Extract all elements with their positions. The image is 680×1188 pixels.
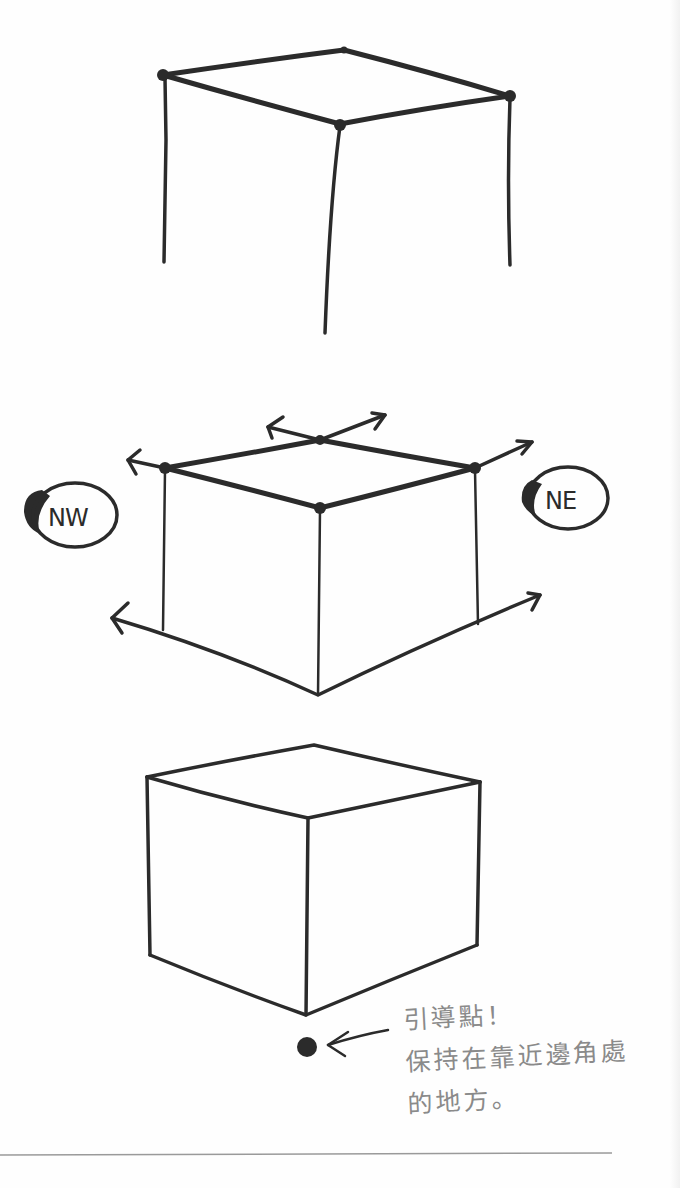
page-edge-shadow — [670, 0, 680, 1188]
corner-dot-back — [341, 47, 348, 54]
ne-label: NE — [545, 487, 576, 515]
step-1-open-cube — [157, 47, 516, 334]
corner-dot-left — [157, 69, 169, 81]
guide-point — [297, 1037, 317, 1057]
bottom-divider — [0, 1153, 612, 1155]
corner-dot-right — [504, 90, 516, 102]
nw-direction-badge: NW — [24, 483, 117, 547]
step-2-cube-with-guides: NW NE — [24, 413, 608, 695]
nw-label: NW — [48, 504, 88, 532]
guide-pointer-arrow — [328, 1030, 388, 1045]
corner-dot-front — [334, 119, 346, 131]
guide-point-annotation: 引導點！ 保持在靠近邊角處 的地方。 — [402, 988, 632, 1126]
ne-direction-badge: NE — [522, 467, 608, 529]
